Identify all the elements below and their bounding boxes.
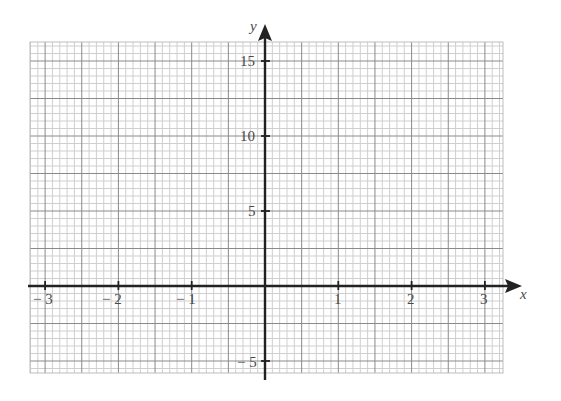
- x-tick-label: − 1: [176, 291, 196, 307]
- y-tick-label: − 5: [237, 354, 257, 370]
- x-tick-label: 2: [407, 291, 415, 307]
- x-tick-label: − 2: [102, 291, 122, 307]
- major-grid: [30, 42, 503, 373]
- y-tick-label: 5: [248, 203, 256, 219]
- y-tick-label: 10: [240, 128, 255, 144]
- y-axis-label: y: [248, 18, 257, 34]
- x-tick-label: 3: [480, 291, 488, 307]
- x-tick-label: − 3: [33, 291, 53, 307]
- y-tick-label: 15: [240, 53, 255, 69]
- x-axis-label: x: [519, 286, 527, 302]
- x-tick-label: 1: [334, 291, 342, 307]
- graph-paper-chart: x y − 3 − 2 − 1 1 2 3 15 10 5 − 5: [0, 0, 561, 401]
